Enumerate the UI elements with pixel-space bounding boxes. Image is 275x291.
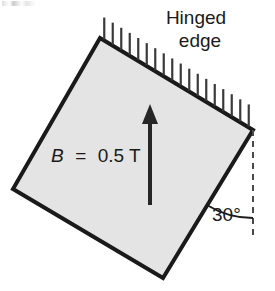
figure-canvas: Hinged edge B = 0.5 T 30° bbox=[0, 0, 275, 291]
physics-figure-hinged-plate: Hinged edge B = 0.5 T 30° bbox=[0, 0, 275, 291]
angle-label: 30° bbox=[212, 204, 241, 225]
hinged-edge-label-line1: Hinged bbox=[166, 7, 226, 28]
hinged-edge-label-line2: edge bbox=[179, 30, 221, 51]
field-value: 0.5 T bbox=[98, 145, 141, 166]
field-equals-sign: = bbox=[75, 145, 86, 166]
field-symbol-b: B bbox=[51, 145, 64, 166]
